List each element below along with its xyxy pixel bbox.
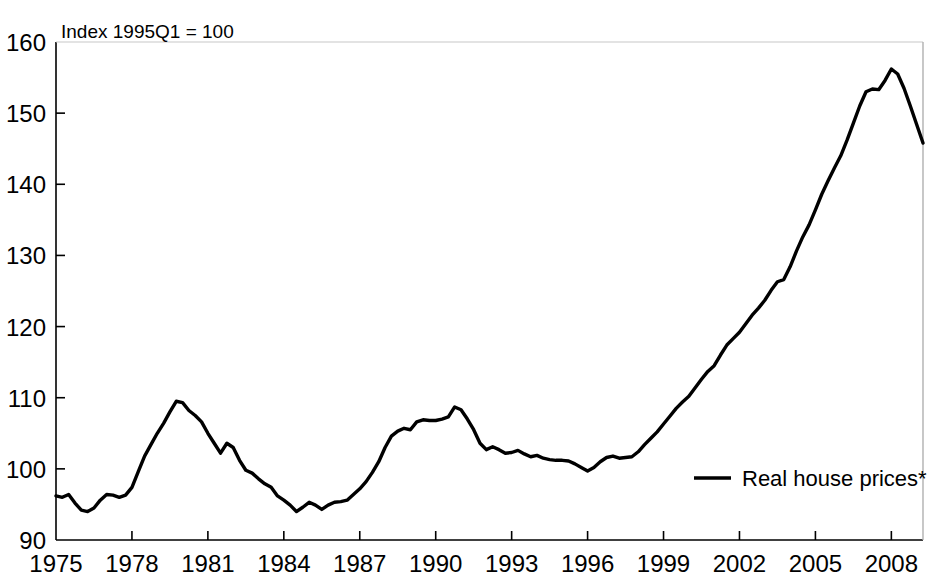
x-axis-tick-labels: 1975197819811984198719901993199619992002…: [29, 550, 918, 577]
x-tick-label-2008: 2008: [865, 550, 918, 577]
chart-title: Index 1995Q1 = 100: [61, 21, 234, 42]
legend-label-real-house-prices: Real house prices*: [742, 466, 927, 491]
y-tick-label-150: 150: [6, 100, 46, 127]
x-tick-label-1999: 1999: [637, 550, 690, 577]
x-tick-label-1978: 1978: [105, 550, 158, 577]
y-axis-ticks: [56, 113, 65, 469]
x-tick-label-1993: 1993: [485, 550, 538, 577]
y-tick-label-130: 130: [6, 242, 46, 269]
x-tick-label-1987: 1987: [333, 550, 386, 577]
series-lines: [56, 69, 923, 512]
y-axis-tick-labels: 90100110120130140150160: [6, 29, 46, 554]
real-house-prices-line-chart: 90100110120130140150160 1975197819811984…: [0, 0, 942, 585]
x-tick-label-2002: 2002: [713, 550, 766, 577]
y-tick-label-110: 110: [8, 385, 46, 412]
x-axis-ticks: [132, 531, 891, 540]
x-tick-label-1990: 1990: [409, 550, 462, 577]
y-tick-label-140: 140: [6, 171, 46, 198]
chart-legend[interactable]: Real house prices*: [694, 466, 927, 491]
y-tick-label-160: 160: [6, 29, 46, 56]
series-line-0: [56, 69, 923, 512]
x-tick-label-2005: 2005: [789, 550, 842, 577]
chart-figure: 90100110120130140150160 1975197819811984…: [0, 0, 942, 585]
x-tick-label-1975: 1975: [29, 550, 82, 577]
y-tick-label-120: 120: [6, 314, 46, 341]
x-tick-label-1996: 1996: [561, 550, 614, 577]
x-tick-label-1984: 1984: [257, 550, 310, 577]
x-tick-label-1981: 1981: [181, 550, 234, 577]
y-tick-label-100: 100: [6, 456, 46, 483]
